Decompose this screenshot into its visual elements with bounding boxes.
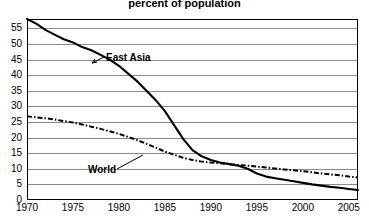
gridline-5 bbox=[28, 184, 357, 185]
gridline-35 bbox=[28, 91, 357, 92]
y-axis-tick-5: 5 bbox=[0, 179, 22, 189]
plot-area bbox=[27, 19, 358, 200]
y-axis-labels: 0510152025303540455055 bbox=[0, 0, 25, 223]
plot-inner bbox=[28, 20, 357, 199]
y-axis-tick-10: 10 bbox=[0, 164, 22, 174]
y-axis-tick-55: 55 bbox=[0, 23, 22, 33]
x-axis-labels: 19701975198019851990199520002005 bbox=[0, 202, 369, 222]
gridline-20 bbox=[28, 138, 357, 139]
series-label-east-asia: East Asia bbox=[106, 52, 151, 63]
y-axis-tick-35: 35 bbox=[0, 86, 22, 96]
gridline-45 bbox=[28, 60, 357, 61]
series-label-world: World bbox=[88, 164, 116, 175]
gridline-25 bbox=[28, 122, 357, 123]
y-axis-tick-40: 40 bbox=[0, 70, 22, 80]
gridline-50 bbox=[28, 44, 357, 45]
gridline-15 bbox=[28, 153, 357, 154]
y-axis-tick-50: 50 bbox=[0, 39, 22, 49]
x-axis-tick-2000: 2000 bbox=[286, 202, 320, 213]
x-axis-tick-1990: 1990 bbox=[194, 202, 228, 213]
x-axis-tick-1970: 1970 bbox=[10, 202, 44, 213]
y-axis-tick-45: 45 bbox=[0, 55, 22, 65]
x-axis-tick-1980: 1980 bbox=[102, 202, 136, 213]
gridline-40 bbox=[28, 75, 357, 76]
x-axis-tick-1995: 1995 bbox=[240, 202, 274, 213]
y-axis-tick-20: 20 bbox=[0, 133, 22, 143]
chart-title-line-2: percent of population bbox=[0, 0, 369, 10]
chart-title: Share of the population living on less t… bbox=[0, 0, 369, 10]
x-axis-tick-1985: 1985 bbox=[148, 202, 182, 213]
chart-container: Share of the population living on less t… bbox=[0, 0, 369, 223]
x-axis-tick-2005: 2005 bbox=[332, 202, 366, 213]
y-axis-tick-15: 15 bbox=[0, 148, 22, 158]
gridline-30 bbox=[28, 106, 357, 107]
gridline-10 bbox=[28, 169, 357, 170]
gridline-55 bbox=[28, 28, 357, 29]
x-axis-tick-1975: 1975 bbox=[56, 202, 90, 213]
y-axis-tick-25: 25 bbox=[0, 117, 22, 127]
y-axis-tick-30: 30 bbox=[0, 101, 22, 111]
